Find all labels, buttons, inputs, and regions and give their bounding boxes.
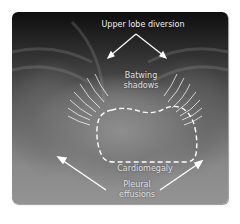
chest-xray-image: Upper lobe diversion Batwing shadows Car… — [12, 12, 228, 204]
annotation-overlay — [12, 12, 228, 204]
pleural-label-line1: Pleural — [114, 180, 160, 190]
batwing-label-line2: shadows — [116, 81, 166, 91]
batwing-label-line1: Batwing — [116, 71, 166, 81]
upper-lobe-arrows — [108, 34, 166, 58]
batwing-shadows-label: Batwing shadows — [116, 71, 166, 91]
batwing-right — [164, 74, 202, 125]
cardiomegaly-label: Cardiomegaly — [112, 164, 178, 174]
upper-lobe-diversion-label: Upper lobe diversion — [98, 20, 188, 30]
pleural-label-line2: effusions — [114, 190, 160, 200]
pleural-effusions-label: Pleural effusions — [114, 180, 160, 200]
